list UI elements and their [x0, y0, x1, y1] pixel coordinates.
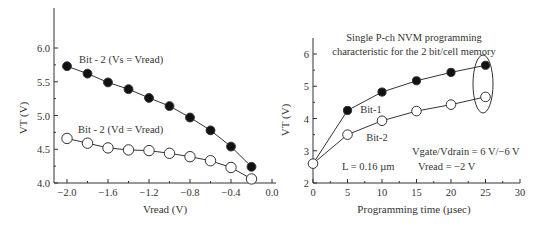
x-tick-label: 15	[411, 187, 422, 198]
filled-marker	[227, 142, 236, 151]
open-marker	[412, 106, 422, 116]
open-marker	[185, 151, 195, 161]
series-line	[67, 138, 252, 179]
filled-marker	[447, 68, 455, 76]
x-tick-label: 30	[515, 187, 526, 198]
filled-marker	[104, 78, 113, 87]
x-tick-label: 10	[377, 187, 388, 198]
left-label-vs: Bit - 2 (Vs = Vread)	[79, 54, 164, 66]
right-x-axis-label: Programming time (µsec)	[357, 203, 471, 216]
right-annotation-length: L = 0.16 µm	[342, 161, 394, 172]
left-tick-labels: 4.04.55.05.56.0−2.0−1.6−1.2−0.8−0.40.0	[37, 43, 279, 198]
filled-marker	[186, 113, 195, 122]
right-label-bit1: Bit-1	[360, 104, 382, 115]
left-y-axis-label: VT (V)	[17, 101, 30, 134]
left-label-vd: Bit - 2 (Vd = Vread)	[78, 124, 164, 136]
open-marker	[62, 133, 72, 143]
y-tick-label: 5.5	[37, 77, 50, 88]
open-marker	[123, 145, 133, 155]
open-marker	[226, 162, 236, 172]
y-tick-label: 3	[304, 146, 309, 157]
open-marker	[343, 130, 353, 140]
right-title-line2: characteristic for the 2 bit/cell memory	[332, 46, 496, 57]
x-tick-label: 20	[446, 187, 457, 198]
filled-marker	[378, 88, 386, 96]
right-chart: 23456051015202530 Single P-ch NVM progra…	[279, 32, 525, 216]
x-tick-label: −0.4	[221, 187, 241, 198]
y-tick-label: 4.5	[37, 144, 50, 155]
filled-marker	[412, 77, 420, 85]
open-marker	[205, 156, 215, 166]
open-marker	[377, 116, 387, 126]
x-tick-label: −0.8	[180, 187, 199, 198]
x-tick-label: 25	[480, 187, 491, 198]
filled-marker	[63, 62, 72, 71]
open-marker	[82, 138, 92, 148]
filled-marker	[481, 61, 489, 69]
filled-marker	[165, 102, 174, 111]
filled-marker	[145, 94, 154, 103]
x-tick-label: −1.6	[98, 187, 117, 198]
filled-marker	[247, 162, 256, 171]
left-chart: 4.04.55.05.56.0−2.0−1.6−1.2−0.8−0.40.0 V…	[17, 8, 279, 216]
right-annotation-vgate: Vgate/Vdrain = 6 V/−6 V	[412, 146, 520, 157]
open-marker	[446, 100, 456, 110]
y-tick-label: 4	[304, 114, 310, 125]
open-marker	[164, 148, 174, 158]
y-tick-label: 5.0	[37, 111, 50, 122]
x-tick-label: −2.0	[57, 187, 76, 198]
x-tick-label: −1.2	[139, 187, 158, 198]
open-marker	[103, 143, 113, 153]
y-tick-label: 2	[304, 178, 309, 189]
x-tick-label: 5	[345, 187, 350, 198]
x-tick-label: 0.0	[265, 187, 278, 198]
right-annotation-vread: Vread = −2 V	[418, 161, 476, 172]
y-tick-label: 5	[304, 81, 309, 92]
y-tick-label: 6.0	[37, 43, 50, 54]
y-tick-label: 4.0	[37, 178, 50, 189]
right-title-line1: Single P-ch NVM programming	[346, 32, 482, 43]
open-marker	[144, 145, 154, 155]
open-marker	[481, 92, 491, 102]
x-tick-label: 0	[310, 187, 315, 198]
right-label-bit2: Bit-2	[366, 132, 388, 143]
open-marker	[246, 174, 256, 184]
figure: 4.04.55.05.56.0−2.0−1.6−1.2−0.8−0.40.0 V…	[0, 0, 545, 228]
filled-marker	[206, 126, 215, 135]
open-marker	[308, 159, 318, 169]
filled-marker	[343, 106, 351, 114]
filled-marker	[83, 69, 92, 78]
left-series	[62, 62, 257, 184]
y-tick-label: 6	[304, 49, 309, 60]
filled-marker	[124, 85, 133, 94]
right-y-axis-label: VT (V)	[279, 103, 292, 136]
left-x-axis-label: Vread (V)	[143, 203, 188, 216]
